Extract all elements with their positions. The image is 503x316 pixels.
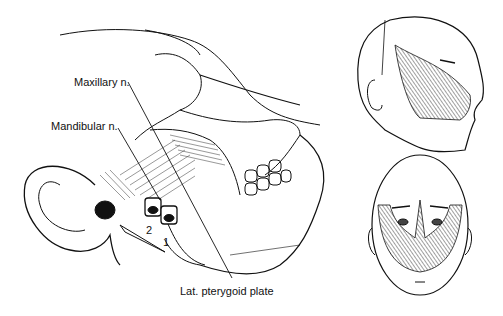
lateral-head — [358, 17, 484, 152]
frontal-head — [368, 155, 471, 295]
skull-illustration — [0, 0, 503, 316]
label-needle-1: 1 — [163, 236, 169, 248]
label-mandibular-nerve: Mandibular n. — [51, 120, 118, 132]
teeth — [245, 160, 291, 195]
label-needle-2: 2 — [146, 224, 152, 236]
needle-hubs — [145, 198, 177, 224]
label-lat-pterygoid-plate: Lat. pterygoid plate — [180, 285, 274, 297]
label-maxillary-nerve: Maxillary n. — [74, 76, 130, 88]
anatomy-figure: Maxillary n. Mandibular n. Lat. pterygoi… — [0, 0, 503, 316]
hatched-muscle — [100, 135, 225, 205]
